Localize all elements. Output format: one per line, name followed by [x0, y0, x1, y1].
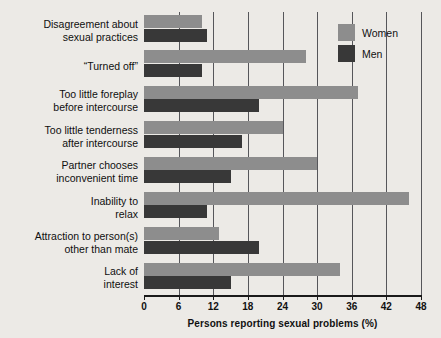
category-label-line: other than mate	[8, 243, 138, 256]
bar-women	[144, 15, 202, 28]
bar-men	[144, 241, 259, 254]
category-label: Disagreement aboutsexual practices	[8, 18, 138, 44]
x-axis-tick	[352, 295, 353, 300]
category-label: Too little foreplaybefore intercourse	[8, 88, 138, 114]
category-label-line: Lack of	[8, 265, 138, 278]
legend-item: Men	[338, 45, 433, 62]
category-label: Inability torelax	[8, 195, 138, 221]
bar-women	[144, 192, 409, 205]
x-axis-tick	[213, 295, 214, 300]
category-label: “Turned off”	[8, 60, 138, 73]
bar-women	[144, 157, 317, 170]
category-label-line: after intercourse	[8, 137, 138, 150]
category-label: Lack ofinterest	[8, 265, 138, 291]
category-label: Attraction to person(s)other than mate	[8, 230, 138, 256]
category-label-line: Inability to	[8, 195, 138, 208]
x-axis-tick-label: 36	[346, 301, 357, 312]
bar-men	[144, 135, 242, 148]
category-label-line: Too little tenderness	[8, 124, 138, 137]
legend-swatch-women	[338, 24, 355, 41]
category-label-line: Too little foreplay	[8, 88, 138, 101]
category-label: Partner choosesinconvenient time	[8, 159, 138, 185]
legend-swatch-men	[338, 45, 355, 62]
bar-men	[144, 170, 231, 183]
legend: WomenMen	[338, 24, 433, 66]
legend-label: Women	[362, 27, 398, 39]
x-axis-tick-label: 30	[312, 301, 323, 312]
x-axis-tick	[386, 295, 387, 300]
x-axis-tick-label: 48	[415, 301, 426, 312]
bar-men	[144, 276, 231, 289]
bar-women	[144, 121, 283, 134]
bar-women	[144, 263, 340, 276]
category-label-line: Attraction to person(s)	[8, 230, 138, 243]
x-axis-tick-label: 6	[176, 301, 182, 312]
x-axis-tick	[144, 295, 145, 300]
category-label-line: relax	[8, 208, 138, 221]
legend-label: Men	[362, 48, 382, 60]
category-label: Too little tendernessafter intercourse	[8, 124, 138, 150]
category-label-line: Partner chooses	[8, 159, 138, 172]
x-axis-tick-label: 0	[141, 301, 147, 312]
bar-women	[144, 50, 306, 63]
x-axis-tick-label: 42	[381, 301, 392, 312]
gridline	[317, 12, 318, 295]
category-label-line: “Turned off”	[8, 60, 138, 73]
bar-men	[144, 29, 207, 42]
bar-men	[144, 64, 202, 77]
x-axis-tick-label: 24	[277, 301, 288, 312]
category-label-line: sexual practices	[8, 31, 138, 44]
x-axis-tick	[317, 295, 318, 300]
x-axis-tick-label: 18	[242, 301, 253, 312]
legend-item: Women	[338, 24, 433, 41]
x-axis-tick	[421, 295, 422, 300]
bar-women	[144, 227, 219, 240]
bar-men	[144, 99, 259, 112]
bar-chart: Disagreement aboutsexual practices“Turne…	[0, 0, 441, 338]
bar-men	[144, 205, 207, 218]
x-axis-tick-label: 12	[208, 301, 219, 312]
bar-women	[144, 86, 358, 99]
x-axis-tick	[248, 295, 249, 300]
category-label-line: interest	[8, 278, 138, 291]
x-axis-title: Persons reporting sexual problems (%)	[144, 318, 421, 329]
category-label-line: inconvenient time	[8, 172, 138, 185]
category-label-line: Disagreement about	[8, 18, 138, 31]
category-axis-labels: Disagreement aboutsexual practices“Turne…	[8, 12, 138, 295]
x-axis-tick	[179, 295, 180, 300]
category-label-line: before intercourse	[8, 101, 138, 114]
x-axis-tick	[283, 295, 284, 300]
